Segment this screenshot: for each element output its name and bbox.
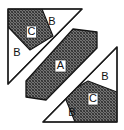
label-a-center: A [55,59,66,72]
geometric-figure: C B B A B C B [0,0,124,130]
label-b-left: B [13,46,20,58]
label-b-top: B [48,15,55,27]
label-c-bottom: C [88,92,98,105]
label-b-right-text: B [101,70,108,82]
label-c-bottom-text: C [89,92,97,104]
label-b-left-text: B [13,46,20,58]
label-a-center-text: A [57,59,65,71]
figure-canvas: C B B A B C B [0,0,124,130]
label-c-top-text: C [28,25,36,37]
label-c-top: C [27,25,37,38]
label-b-right: B [101,70,108,82]
label-b-top-text: B [48,15,55,27]
label-b-bottom: B [68,106,75,118]
label-b-bottom-text: B [68,106,75,118]
